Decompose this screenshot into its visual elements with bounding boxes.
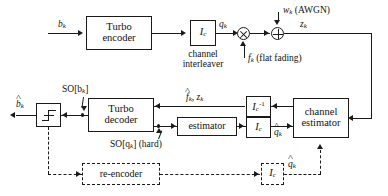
- signal-label-bhatk: bk: [16, 100, 24, 111]
- arrowhead-fhatzk-decoder: [155, 103, 160, 109]
- wire-adder-to-right: [284, 33, 372, 34]
- signal-label-qk: qk: [219, 20, 227, 31]
- interleaver3-label: Ic: [269, 168, 276, 179]
- block-channel-interleaver: Ic: [190, 20, 216, 46]
- interleaver2-label: Ic: [255, 122, 262, 133]
- block-channel-interleaver-2: Ic: [246, 117, 271, 138]
- arrowhead-mult-adder: [264, 30, 269, 36]
- signal-label-bk: bk: [58, 20, 66, 31]
- block-diagram: bk Turbo encoder Ic channel interleaver …: [0, 0, 388, 196]
- arrowhead-so-bk: [81, 106, 87, 111]
- arrowhead-chest-in-qhat: [287, 123, 292, 129]
- turbo-decoder-label-line2: decoder: [104, 115, 137, 126]
- estimator-label: estimator: [188, 121, 225, 131]
- turbo-encoder-label-line2: encoder: [102, 33, 135, 44]
- signal-label-fhat-zk: fk, zk: [186, 93, 203, 104]
- wire-encoder-to-interleaver: [152, 33, 183, 34]
- block-re-encoder: re-encoder: [82, 163, 160, 185]
- re-encoder-label: re-encoder: [100, 169, 143, 179]
- signal-label-qhatk-lower: qk: [288, 160, 296, 171]
- arrowhead-ic-in: [239, 123, 244, 129]
- signal-label-so-qk: SO[qk] (hard): [110, 140, 162, 151]
- arrowhead-estimator-in: [171, 123, 176, 129]
- threshold-icon: [42, 108, 57, 124]
- channel-interleaver-caption: channel interleaver: [170, 50, 236, 70]
- arrowhead-chest-bottom-in: [317, 144, 323, 149]
- arrowhead-so-qk: [156, 128, 162, 133]
- wire-into-channel-estimator: [352, 118, 372, 119]
- signal-label-qhatk-upper: qk: [274, 128, 282, 139]
- dashed-wire-up-to-chest: [320, 150, 321, 174]
- signal-label-zk: zk: [300, 20, 307, 31]
- multiplier-node: [237, 27, 250, 40]
- wire-fk-to-mult: [244, 46, 245, 58]
- dashed-wire-reencoder-to-ic3: [160, 174, 260, 175]
- arrowhead-slicer-in: [62, 112, 67, 118]
- arrowhead-wk-adder: [274, 20, 280, 25]
- signal-label-wk: wk (AWGN): [283, 6, 330, 17]
- wire-fhatzk-to-decoder: [154, 106, 245, 107]
- channel-estimator-label-line2: estimator: [301, 118, 340, 129]
- block-channel-deinterleaver: Ic-1: [246, 96, 271, 117]
- block-turbo-encoder: Turbo encoder: [86, 16, 152, 50]
- wire-right-down: [371, 33, 372, 118]
- arrowhead-deinterleaver-in: [272, 103, 277, 109]
- arrowhead-bhatk-out: [10, 112, 15, 118]
- arrowhead-ic3-in: [254, 171, 259, 177]
- junction-dot-so-bk: [81, 113, 84, 116]
- arrowhead-bk-encoder: [78, 30, 83, 36]
- block-channel-interleaver-3: Ic: [261, 163, 284, 185]
- signal-label-so-bk: SO[bk]: [62, 85, 88, 96]
- adder-node: [271, 27, 284, 40]
- dashed-wire-bhat-down: [48, 127, 49, 174]
- arrowhead-reencoder-in: [76, 171, 81, 177]
- block-estimator: estimator: [177, 117, 237, 136]
- wire-slicer-to-output: [16, 115, 36, 116]
- channel-interleaver-label: Ic: [200, 27, 207, 38]
- dashed-wire-ic3-right: [284, 174, 321, 175]
- wire-bk-to-encoder: [48, 33, 80, 34]
- deinterleaver-label: Ic-1: [252, 101, 264, 113]
- block-channel-estimator: channel estimator: [293, 98, 349, 138]
- block-hard-decision-slicer: [36, 103, 61, 127]
- arrowhead-encoder-interleaver: [181, 30, 186, 36]
- signal-label-fk: fk (flat fading): [248, 54, 302, 65]
- block-turbo-decoder: Turbo decoder: [88, 98, 154, 132]
- arrowhead-fk-mult: [240, 41, 246, 46]
